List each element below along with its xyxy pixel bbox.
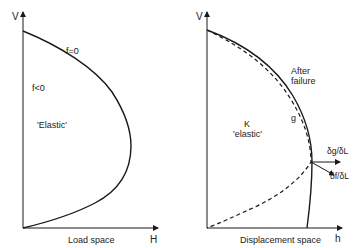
yield-curve-label: f=0: [66, 47, 79, 56]
elastic-region-label-right: 'elastic': [233, 130, 262, 139]
k-symbol-label: K: [244, 120, 250, 129]
right-caption: Displacement space: [240, 236, 321, 245]
dg-dL-label: δg/δL: [327, 147, 348, 156]
right-x-axis-label: h: [335, 234, 341, 244]
right-panel: [207, 12, 342, 228]
right-y-axis-label: V: [196, 12, 203, 22]
after-failure-line1: After: [291, 67, 310, 76]
left-y-axis-label: V: [12, 12, 19, 22]
g-curve-label: g: [291, 114, 296, 123]
df-dL-label: δf/δL: [330, 172, 349, 181]
left-x-axis-label: H: [150, 235, 157, 245]
region-label: f<0: [32, 84, 45, 93]
after-failure-line2: failure: [291, 77, 316, 86]
elastic-region-label: 'Elastic': [37, 121, 67, 130]
left-caption: Load space: [68, 236, 115, 245]
